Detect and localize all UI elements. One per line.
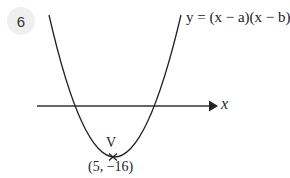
x-axis-label: x [221, 95, 228, 113]
x-axis-arrow-icon [209, 101, 218, 112]
vertex-label: V [106, 135, 116, 151]
equation-label: y = (x − a)(x − b) [186, 9, 290, 26]
parabola-graph [0, 0, 290, 178]
vertex-coordinates: (5, −16) [88, 159, 133, 175]
